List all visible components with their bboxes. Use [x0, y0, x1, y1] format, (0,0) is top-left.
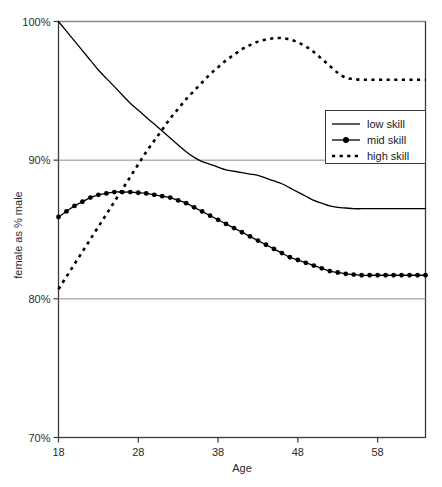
series-marker [160, 194, 165, 199]
series-marker [184, 201, 189, 206]
series-marker [327, 269, 332, 274]
y-tick-label: 90% [28, 154, 50, 166]
series-marker [319, 266, 324, 271]
chart-background [0, 0, 442, 487]
y-axis-title: female as % male [12, 191, 24, 278]
series-marker [192, 205, 197, 210]
series-marker [375, 273, 380, 278]
series-marker [248, 234, 253, 239]
series-marker [72, 204, 77, 209]
series-marker [200, 209, 205, 214]
series-marker [383, 273, 388, 278]
series-marker [80, 199, 85, 204]
x-tick-label: 18 [52, 446, 64, 458]
chart-legend: low skillmid skillhigh skill [326, 111, 426, 164]
y-tick-label: 100% [22, 16, 50, 28]
x-tick-label: 48 [292, 446, 304, 458]
x-tick-label: 28 [132, 446, 144, 458]
x-tick-label: 58 [372, 446, 384, 458]
series-marker [423, 273, 428, 278]
series-marker [415, 273, 420, 278]
series-marker [303, 260, 308, 265]
legend-label: low skill [367, 118, 405, 130]
series-marker [96, 192, 101, 197]
series-marker [359, 273, 364, 278]
series-marker [136, 190, 141, 195]
chart-figure: 70%80%90%100% 1828384858 Age female as %… [0, 0, 442, 487]
series-marker [64, 209, 69, 214]
series-marker [311, 263, 316, 268]
y-tick-label: 80% [28, 293, 50, 305]
series-marker [391, 273, 396, 278]
series-marker [208, 213, 213, 218]
x-tick-label: 38 [212, 446, 224, 458]
series-marker [399, 273, 404, 278]
series-marker [152, 192, 157, 197]
series-marker [264, 242, 269, 247]
legend-label: mid skill [367, 134, 406, 146]
series-marker [168, 195, 173, 200]
series-marker [104, 191, 109, 196]
x-axis-title: Age [232, 462, 252, 474]
series-marker [256, 238, 261, 243]
series-marker [343, 271, 348, 276]
series-marker [279, 251, 284, 256]
y-tick-label: 70% [28, 432, 50, 444]
series-marker [335, 270, 340, 275]
series-marker [128, 190, 133, 195]
series-marker [232, 226, 237, 231]
series-marker [295, 258, 300, 263]
series-marker [240, 230, 245, 235]
series-marker [351, 272, 356, 277]
legend-swatch-marker [343, 137, 349, 143]
series-marker [367, 273, 372, 278]
series-marker [56, 215, 61, 220]
series-marker [407, 273, 412, 278]
series-marker [272, 247, 277, 252]
series-marker [216, 217, 221, 222]
chart-svg: 70%80%90%100% 1828384858 Age female as %… [0, 0, 442, 487]
series-marker [144, 191, 149, 196]
series-marker [224, 222, 229, 227]
legend-label: high skill [367, 150, 409, 162]
series-marker [88, 195, 93, 200]
series-marker [287, 255, 292, 260]
series-marker [176, 198, 181, 203]
series-marker [112, 190, 117, 195]
